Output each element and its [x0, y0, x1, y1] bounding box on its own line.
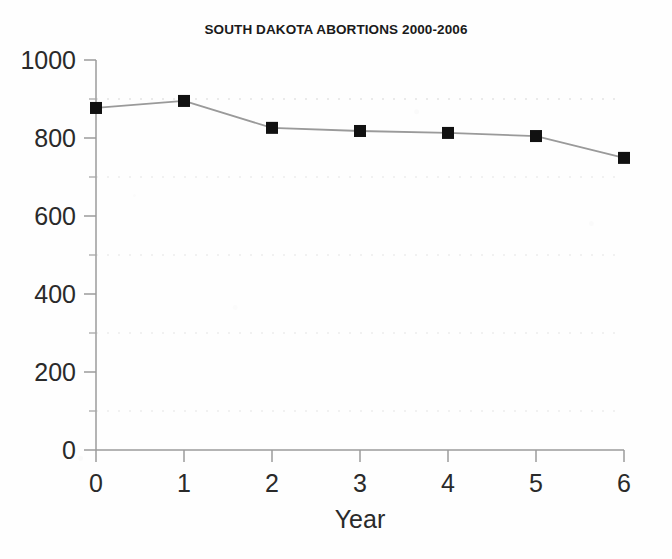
data-point-marker: [90, 102, 102, 114]
x-tick-label-2: 2: [265, 469, 279, 497]
x-tick-label-0: 0: [89, 469, 103, 497]
x-tick-label-4: 4: [441, 469, 455, 497]
data-point-marker: [618, 152, 630, 164]
x-tick-label-5: 5: [529, 469, 543, 497]
y-tick-label-800: 800: [34, 124, 76, 152]
line-chart-plot: 1000 800 600 400 200 0 0 1 2 3 4 5 6 Yea…: [0, 0, 672, 559]
x-tick-label-1: 1: [177, 469, 191, 497]
y-tick-label-0: 0: [62, 436, 76, 464]
x-tick-label-3: 3: [353, 469, 367, 497]
data-point-marker: [178, 95, 190, 107]
data-point-marker: [530, 130, 542, 142]
y-tick-label-600: 600: [34, 202, 76, 230]
y-axis-tick-labels: 1000 800 600 400 200 0: [20, 46, 76, 464]
data-point-marker: [354, 125, 366, 137]
data-point-marker: [266, 122, 278, 134]
data-series-markers: [90, 95, 630, 164]
x-tick-label-6: 6: [617, 469, 631, 497]
y-axis-minor-ticks: [89, 99, 96, 411]
y-tick-label-200: 200: [34, 358, 76, 386]
chart-figure: SOUTH DAKOTA ABORTIONS 2000-2006: [0, 0, 672, 559]
x-axis-tick-labels: 0 1 2 3 4 5 6: [89, 469, 631, 497]
x-axis-title: Year: [335, 505, 386, 533]
gridlines-minor: [96, 99, 624, 411]
y-tick-label-400: 400: [34, 280, 76, 308]
x-axis-ticks: [96, 450, 624, 462]
y-tick-label-1000: 1000: [20, 46, 76, 74]
data-point-marker: [442, 127, 454, 139]
